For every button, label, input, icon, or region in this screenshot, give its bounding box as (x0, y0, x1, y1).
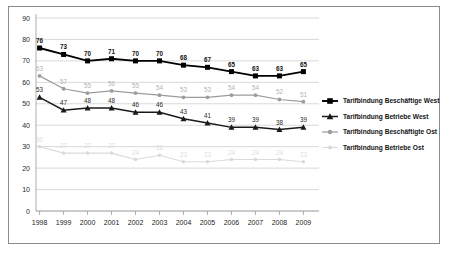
y-axis-tick-label: 80 (22, 36, 30, 43)
data-point-label: 23 (204, 151, 212, 158)
data-point-label: 63 (252, 65, 260, 72)
series-line (40, 147, 304, 162)
data-point-marker (134, 91, 138, 95)
data-point-marker (206, 160, 210, 164)
data-point-marker (86, 91, 90, 95)
data-point-marker (254, 158, 258, 162)
data-point-marker (230, 93, 234, 97)
data-point-marker (38, 145, 42, 149)
data-point-marker (278, 158, 282, 162)
data-point-label: 70 (156, 50, 164, 57)
data-point-marker (110, 89, 114, 93)
data-point-marker (181, 63, 186, 68)
chart-series: 302727272426232324242423 (36, 136, 307, 164)
data-point-label: 39 (228, 116, 236, 123)
data-point-label: 70 (132, 50, 140, 57)
data-point-marker (229, 69, 234, 74)
y-axis-tick-label: 70 (22, 57, 30, 64)
x-axis-category-label: 2005 (200, 219, 216, 226)
data-point-marker (302, 100, 306, 104)
data-point-label: 23 (180, 151, 188, 158)
data-point-label: 76 (36, 37, 44, 44)
y-axis-tick-label: 0 (26, 208, 30, 215)
legend-item[interactable]: Tarifbindung Betriebe Ost (322, 144, 425, 152)
data-point-label: 53 (204, 86, 212, 93)
data-point-label: 46 (132, 101, 140, 108)
legend-item[interactable]: Tarifbindung Betriebe West (322, 113, 429, 121)
data-point-marker (206, 95, 210, 99)
y-axis-tick-label: 20 (22, 165, 30, 172)
data-point-label: 27 (108, 142, 116, 149)
line-chart: 0102030405060708090199819992000200120022… (0, 0, 450, 253)
data-point-marker (134, 158, 138, 162)
y-axis-tick-label: 50 (22, 100, 30, 107)
data-point-marker (254, 93, 258, 97)
data-point-label: 30 (36, 136, 44, 143)
chart-series: 635755565554535354545251 (36, 65, 307, 104)
x-axis-category-label: 2002 (128, 219, 144, 226)
data-point-label: 24 (132, 149, 140, 156)
data-point-marker (85, 58, 90, 63)
data-point-label: 54 (252, 84, 260, 91)
data-point-marker (182, 95, 186, 99)
legend-label: Tarifbindung Betriebe West (343, 113, 429, 121)
data-point-label: 70 (84, 50, 92, 57)
series-line (40, 76, 304, 102)
data-point-marker (277, 73, 282, 78)
data-point-label: 54 (156, 84, 164, 91)
legend-item[interactable]: Tarifbindung Beschäftigte Ost (322, 128, 438, 136)
data-point-label: 65 (228, 61, 236, 68)
data-point-marker (157, 58, 162, 63)
data-point-marker (62, 87, 66, 91)
data-point-label: 24 (252, 149, 260, 156)
x-axis-category-label: 1998 (32, 219, 48, 226)
data-point-label: 27 (60, 142, 68, 149)
data-point-label: 56 (108, 80, 116, 87)
data-point-marker (230, 158, 234, 162)
data-point-label: 48 (108, 97, 116, 104)
data-point-label: 51 (300, 91, 308, 98)
x-axis-category-label: 2006 (224, 219, 240, 226)
data-point-marker (182, 160, 186, 164)
data-point-label: 55 (84, 82, 92, 89)
x-axis-category-label: 2009 (296, 219, 312, 226)
data-point-marker (158, 153, 162, 157)
data-point-label: 53 (180, 86, 188, 93)
x-axis-category-label: 2008 (272, 219, 288, 226)
data-point-label: 63 (276, 65, 284, 72)
data-point-label: 55 (132, 82, 140, 89)
y-axis-tick-label: 40 (22, 122, 30, 129)
data-point-marker (62, 151, 66, 155)
data-point-label: 38 (276, 119, 284, 126)
data-point-marker (86, 151, 90, 155)
data-point-marker (133, 58, 138, 63)
x-axis-category-label: 2003 (152, 219, 168, 226)
x-axis-category-label: 1999 (56, 219, 72, 226)
x-axis-category-label: 2001 (104, 219, 120, 226)
data-point-label: 39 (252, 116, 260, 123)
legend-label: Tarifbindung Betriebe Ost (343, 144, 425, 152)
data-point-label: 68 (180, 54, 188, 61)
data-point-marker (38, 74, 42, 78)
data-point-label: 63 (36, 65, 44, 72)
legend-label: Tarifbindung Beschäftige West (343, 97, 440, 105)
series-line (40, 48, 304, 76)
data-point-label: 47 (60, 99, 68, 106)
data-point-label: 41 (204, 112, 212, 119)
chart-container: 0102030405060708090199819992000200120022… (0, 0, 450, 253)
data-point-label: 46 (156, 101, 164, 108)
data-point-label: 73 (60, 43, 68, 50)
x-axis-category-label: 2007 (248, 219, 264, 226)
y-axis-tick-label: 10 (22, 186, 30, 193)
x-axis-category-label: 2000 (80, 219, 96, 226)
data-point-marker (302, 160, 306, 164)
data-point-marker (301, 69, 306, 74)
data-point-label: 52 (276, 88, 284, 95)
y-axis-tick-label: 30 (22, 143, 30, 150)
data-point-marker (109, 56, 114, 61)
data-point-label: 26 (156, 144, 164, 151)
legend-item[interactable]: Tarifbindung Beschäftige West (322, 97, 440, 105)
data-point-marker (110, 151, 114, 155)
data-point-label: 48 (84, 97, 92, 104)
legend-marker-icon (328, 145, 332, 149)
